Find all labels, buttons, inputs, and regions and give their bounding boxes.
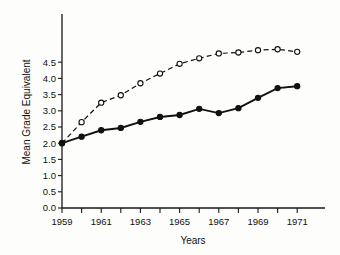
y-tick-label: 1.0 [43, 170, 56, 181]
data-point-filled-circle [59, 141, 64, 146]
data-point-filled-circle [177, 112, 182, 117]
data-point-open-circle [157, 71, 162, 76]
x-tick-label: 1969 [247, 216, 268, 227]
y-tick-label: 3.0 [43, 105, 56, 116]
data-point-filled-circle [275, 86, 280, 91]
y-tick-label: 0.0 [43, 202, 56, 213]
series-markers-filled-circle [59, 84, 299, 146]
x-axis-tick-labels: 1959196119631965196719691971 [51, 216, 307, 227]
y-axis-tick-labels: 0.00.51.01.52.02.53.03.54.04.5 [43, 57, 56, 214]
chart-figure: 0.00.51.01.52.02.53.03.54.04.5 195919611… [0, 0, 340, 255]
x-tick-label: 1971 [287, 216, 308, 227]
data-point-filled-circle [99, 128, 104, 133]
y-tick-label: 2.5 [43, 121, 56, 132]
data-point-open-circle [118, 93, 123, 98]
data-point-open-circle [295, 49, 300, 54]
y-axis-title: Mean Grade Equivalent [21, 59, 32, 164]
data-point-filled-circle [157, 114, 162, 119]
data-point-open-circle [138, 81, 143, 86]
data-point-filled-circle [255, 95, 260, 100]
y-tick-label: 3.5 [43, 89, 56, 100]
data-point-filled-circle [138, 119, 143, 124]
y-tick-label: 4.0 [43, 73, 56, 84]
x-tick-label: 1965 [169, 216, 190, 227]
x-tick-label: 1961 [91, 216, 112, 227]
data-point-filled-circle [197, 106, 202, 111]
x-axis-ticks [62, 208, 297, 213]
series-markers-open-circle [59, 47, 299, 146]
data-point-open-circle [79, 120, 84, 125]
y-tick-label: 2.0 [43, 138, 56, 149]
x-tick-label: 1967 [208, 216, 229, 227]
data-point-open-circle [177, 61, 182, 66]
data-point-open-circle [99, 100, 104, 105]
y-tick-label: 0.5 [43, 186, 56, 197]
data-point-open-circle [255, 48, 260, 53]
data-point-open-circle [236, 50, 241, 55]
y-tick-label: 4.5 [43, 57, 56, 68]
line-chart: 0.00.51.01.52.02.53.03.54.04.5 195919611… [0, 0, 340, 255]
data-point-filled-circle [118, 125, 123, 130]
data-point-open-circle [275, 47, 280, 52]
x-axis-title: Years [180, 235, 205, 246]
y-tick-label: 1.5 [43, 154, 56, 165]
data-point-filled-circle [295, 84, 300, 89]
data-point-filled-circle [79, 134, 84, 139]
data-point-open-circle [216, 51, 221, 56]
x-tick-label: 1959 [51, 216, 72, 227]
data-point-open-circle [197, 56, 202, 61]
x-tick-label: 1963 [130, 216, 151, 227]
data-point-filled-circle [236, 106, 241, 111]
data-point-filled-circle [216, 110, 221, 115]
